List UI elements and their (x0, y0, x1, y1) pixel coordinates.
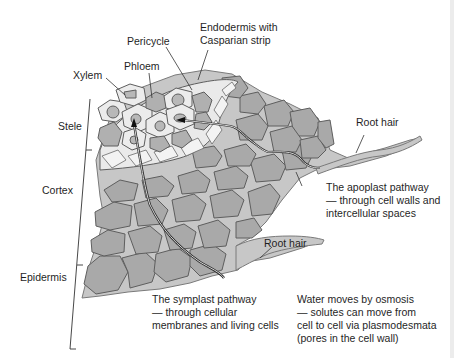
label-endodermis-line-2: Casparian strip (200, 34, 278, 47)
right-edge-strip (450, 0, 454, 358)
osmosis-line-4: (pores in the cell wall) (297, 332, 436, 345)
label-apoplast-pathway: The apoplast pathway — through cell wall… (326, 181, 440, 220)
label-xylem: Xylem (73, 69, 102, 82)
symplast-line-3: membranes and living cells (152, 319, 279, 332)
label-osmosis: Water moves by osmosis — solutes can mov… (297, 293, 436, 345)
osmosis-line-3: cell to cell via plasmodesmata (297, 319, 436, 332)
label-symplast-pathway: The symplast pathway — through cellular … (152, 293, 279, 332)
label-cortex: Cortex (42, 184, 73, 197)
label-stele: Stele (58, 120, 82, 133)
apoplast-line-3: intercellular spaces (326, 207, 440, 220)
symplast-line-2: — through cellular (152, 306, 279, 319)
label-pericycle: Pericycle (127, 35, 170, 48)
apoplast-line-2: — through cell walls and (326, 194, 440, 207)
root-cross-section-diagram: Endodermis with Casparian strip Pericycl… (0, 0, 454, 358)
label-epidermis: Epidermis (20, 271, 67, 284)
osmosis-line-2: — solutes can move from (297, 306, 436, 319)
label-phloem: Phloem (124, 60, 160, 73)
label-endodermis-line-1: Endodermis with (200, 21, 278, 34)
region-bracket (70, 99, 92, 349)
label-root-hair-lower: Root hair (264, 237, 307, 250)
symplast-line-1: The symplast pathway (152, 293, 279, 306)
label-root-hair-upper: Root hair (356, 116, 399, 129)
apoplast-line-1: The apoplast pathway (326, 181, 440, 194)
label-endodermis: Endodermis with Casparian strip (200, 21, 278, 47)
osmosis-line-1: Water moves by osmosis (297, 293, 436, 306)
